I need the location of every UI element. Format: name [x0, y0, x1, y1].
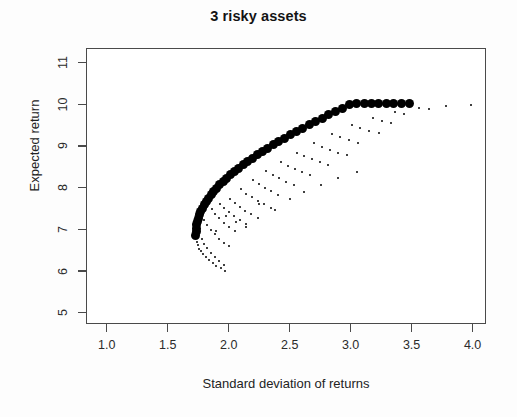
x-tick-label: 4.0	[453, 338, 493, 352]
data-point	[257, 217, 259, 219]
data-point	[239, 206, 241, 208]
y-tick-mark	[78, 145, 86, 146]
y-tick-mark	[78, 62, 86, 63]
data-point	[289, 198, 291, 200]
y-tick-label: 8	[56, 175, 71, 201]
data-point	[470, 104, 472, 106]
x-tick-mark	[106, 324, 107, 332]
data-point	[390, 122, 392, 124]
data-point	[258, 183, 260, 185]
data-point	[359, 127, 361, 129]
y-tick-label: 6	[56, 258, 71, 284]
data-point	[311, 158, 313, 160]
data-point	[225, 215, 227, 217]
y-tick-label: 10	[56, 91, 71, 117]
data-point	[214, 213, 216, 215]
x-tick-mark	[350, 324, 351, 332]
data-point	[394, 111, 396, 113]
x-tick-mark	[167, 324, 168, 332]
x-tick-mark	[228, 324, 229, 332]
y-tick-label: 11	[56, 50, 71, 76]
data-point	[329, 149, 331, 151]
scatter-plot-area	[86, 48, 486, 324]
data-point	[240, 188, 242, 190]
data-point	[303, 155, 305, 157]
data-point	[208, 259, 210, 261]
data-point	[245, 226, 247, 228]
data-point	[229, 198, 231, 200]
data-point	[233, 215, 235, 217]
data-point	[206, 224, 208, 226]
data-point	[280, 161, 282, 163]
y-tick-mark	[78, 270, 86, 271]
data-point	[244, 210, 246, 212]
data-point	[294, 168, 296, 170]
data-point	[219, 203, 221, 205]
data-point	[445, 105, 447, 107]
data-point	[351, 124, 353, 126]
data-point	[346, 154, 348, 156]
data-point	[228, 211, 230, 213]
y-tick-mark	[78, 229, 86, 230]
data-point	[339, 136, 341, 138]
data-point	[270, 207, 272, 209]
data-point	[296, 152, 298, 154]
data-point	[321, 146, 323, 148]
data-point	[303, 191, 305, 193]
data-point	[368, 130, 370, 132]
data-point	[201, 238, 203, 240]
data-point	[356, 171, 358, 173]
data-point	[203, 243, 205, 245]
data-point	[215, 230, 217, 232]
x-tick-mark	[289, 324, 290, 332]
data-point	[220, 267, 222, 269]
data-point	[203, 219, 205, 221]
y-tick-mark	[78, 104, 86, 105]
data-point	[405, 99, 414, 108]
data-point	[234, 230, 236, 232]
data-point	[263, 203, 265, 205]
x-tick-label: 1.0	[87, 338, 127, 352]
data-point	[245, 223, 247, 225]
x-tick-label: 3.5	[392, 338, 432, 352]
data-point	[418, 107, 420, 109]
y-tick-label: 5	[56, 300, 71, 326]
data-point	[202, 253, 204, 255]
x-axis-label: Standard deviation of returns	[86, 376, 486, 391]
data-point	[348, 139, 350, 141]
x-tick-mark	[472, 324, 473, 332]
data-point	[228, 226, 230, 228]
data-point	[223, 222, 225, 224]
data-point	[250, 213, 252, 215]
x-tick-label: 2.0	[209, 338, 249, 352]
x-tick-label: 3.0	[331, 338, 371, 352]
data-point	[218, 238, 220, 240]
data-point	[319, 161, 321, 163]
data-point	[278, 177, 280, 179]
data-point	[235, 221, 237, 223]
data-point	[215, 265, 217, 267]
data-point	[234, 202, 236, 204]
data-point	[224, 270, 226, 272]
data-point	[210, 252, 212, 254]
data-point	[214, 256, 216, 258]
data-point	[381, 120, 383, 122]
data-point	[251, 196, 253, 198]
data-point	[218, 260, 220, 262]
y-tick-mark	[78, 312, 86, 313]
x-tick-label: 2.5	[270, 338, 310, 352]
data-point	[357, 142, 359, 144]
data-point	[287, 165, 289, 167]
x-tick-label: 1.5	[148, 338, 188, 352]
data-point	[198, 248, 200, 250]
chart-screenshot: 3 risky assets 567891011 1.01.52.02.53.0…	[0, 0, 517, 417]
data-point	[293, 184, 295, 186]
data-point	[309, 174, 311, 176]
y-axis-label: Expected return	[27, 66, 42, 226]
data-point	[301, 171, 303, 173]
data-point	[327, 164, 329, 166]
data-point	[228, 245, 230, 247]
data-point	[403, 113, 405, 115]
y-tick-mark	[78, 187, 86, 188]
data-point	[218, 217, 220, 219]
